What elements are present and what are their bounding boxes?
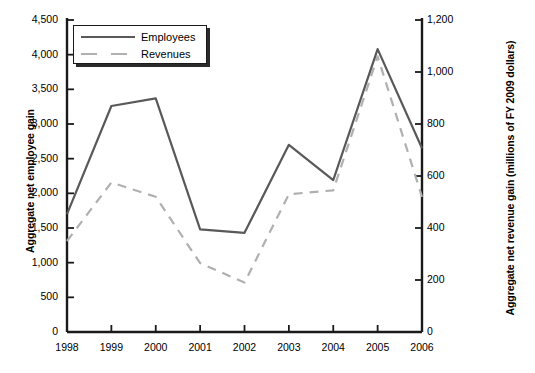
legend-swatch-solid-icon — [81, 32, 135, 42]
x-tick-label: 2003 — [264, 341, 314, 353]
y-tick-label-left: 2,000 — [14, 186, 58, 198]
chart-container: Aggregate net employee gain Aggregate ne… — [0, 0, 535, 373]
x-tick-label: 2004 — [308, 341, 358, 353]
y-tick-label-right: 0 — [427, 325, 471, 337]
y-tick-label-left: 2,500 — [14, 152, 58, 164]
series-line-revenues — [67, 56, 422, 282]
y-tick-label-left: 4,000 — [14, 48, 58, 60]
y-tick-label-right: 800 — [427, 117, 471, 129]
chart-legend: Employees Revenues — [73, 25, 207, 64]
y-tick-label-right: 1,200 — [427, 13, 471, 25]
y-tick-label-left: 3,000 — [14, 117, 58, 129]
legend-item-employees: Employees — [74, 28, 206, 45]
legend-label-employees: Employees — [141, 31, 195, 43]
x-tick-label: 1998 — [42, 341, 92, 353]
left-axis-title: Aggregate net employee gain — [24, 76, 36, 286]
y-tick-label-left: 4,500 — [14, 13, 58, 25]
legend-swatch-dashed-icon — [81, 49, 135, 59]
x-tick-label: 2001 — [175, 341, 225, 353]
y-tick-label-right: 400 — [427, 221, 471, 233]
y-tick-label-left: 0 — [14, 325, 58, 337]
axis-lines — [67, 18, 422, 332]
right-axis-title: Aggregate net revenue gain (millions of … — [504, 18, 516, 338]
series-line-employees — [67, 49, 422, 233]
y-tick-label-left: 1,000 — [14, 256, 58, 268]
x-tick-label: 2006 — [397, 341, 447, 353]
y-tick-label-left: 3,500 — [14, 82, 58, 94]
y-tick-label-left: 500 — [14, 290, 58, 302]
y-tick-label-right: 600 — [427, 169, 471, 181]
legend-item-revenues: Revenues — [74, 45, 206, 62]
y-tick-label-right: 1,000 — [427, 65, 471, 77]
x-tick-label: 2005 — [353, 341, 403, 353]
legend-label-revenues: Revenues — [141, 48, 191, 60]
x-tick-label: 2002 — [220, 341, 270, 353]
y-tick-label-left: 1,500 — [14, 221, 58, 233]
x-tick-label: 1999 — [86, 341, 136, 353]
y-tick-label-right: 200 — [427, 273, 471, 285]
x-tick-label: 2000 — [131, 341, 181, 353]
